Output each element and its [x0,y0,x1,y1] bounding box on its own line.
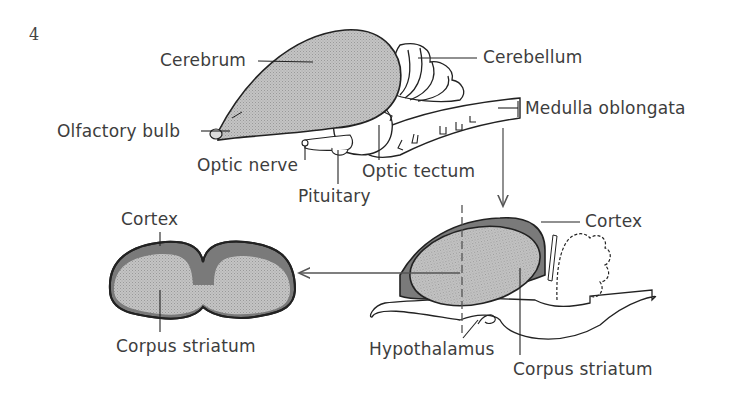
brain-diagram-figure: 4 [0,0,729,411]
label-optic-nerve: Optic nerve [197,155,298,175]
cerebellum-shape [393,44,464,102]
label-medulla-oblongata: Medulla oblongata [525,98,686,118]
label-optic-tectum: Optic tectum [362,161,475,181]
label-transverse-cortex: Cortex [121,209,178,229]
optic-nerve-shape [302,140,308,146]
label-hypothalamus: Hypothalamus [369,339,495,359]
label-sagittal-corpus-striatum: Corpus striatum [513,359,653,379]
label-sagittal-cortex: Cortex [585,211,642,231]
label-cerebrum: Cerebrum [160,50,246,70]
sagittal-cerebellum-folds [557,234,610,300]
transverse-section [110,232,295,332]
label-olfactory-bulb: Olfactory bulb [57,121,180,141]
label-cerebellum: Cerebellum [483,47,582,67]
label-transverse-corpus-striatum: Corpus striatum [116,336,256,356]
label-pituitary: Pituitary [298,186,371,206]
brain-base-shape [305,135,352,151]
